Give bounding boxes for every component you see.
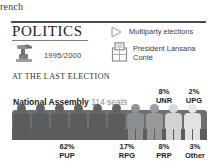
ballot-box-icon xyxy=(111,42,128,62)
header-subtitle: Multiparty elections xyxy=(129,27,193,36)
chart-label-upg-party: UPG xyxy=(180,97,208,106)
gavel-icon xyxy=(13,44,35,62)
chart-label-pup: 62% PUP xyxy=(52,143,82,160)
seat-figures xyxy=(12,104,207,140)
seat-figure xyxy=(70,104,87,140)
seat-figure xyxy=(165,104,182,140)
triangle-right-icon xyxy=(111,26,122,38)
seat-figure xyxy=(13,104,30,140)
term-years: 1995/2000 xyxy=(44,51,81,60)
chart-label-pup-party: PUP xyxy=(52,152,82,161)
seat-figure xyxy=(32,104,49,140)
chart-label-prp: 8% PRP xyxy=(150,143,178,160)
seat-figure xyxy=(51,104,68,140)
chart-label-unr: 8% UNR xyxy=(150,88,178,105)
seat-figure xyxy=(184,104,201,140)
leader-name-line2: Conté xyxy=(133,53,153,62)
leader-name: President Lansana Conté xyxy=(133,45,196,62)
chart-label-rpg: 17% RPG xyxy=(112,143,142,160)
title-underline xyxy=(12,40,88,41)
chart-label-unr-party: UNR xyxy=(150,97,178,106)
seat-figure xyxy=(108,104,125,140)
clipped-heading-text: rench xyxy=(0,1,23,12)
chart-label-prp-party: PRP xyxy=(150,152,178,161)
seat-figure xyxy=(89,104,106,140)
chart-label-rpg-party: RPG xyxy=(112,152,142,161)
chart-label-other: 3% Other xyxy=(178,143,212,160)
chart-label-upg: 2% UPG xyxy=(180,88,208,105)
section-label: AT THE LAST ELECTION xyxy=(12,72,110,81)
chart-label-other-party: Other xyxy=(178,152,212,161)
page-title: POLITICS xyxy=(12,23,83,40)
seat-figure xyxy=(146,104,163,140)
seat-figure xyxy=(127,104,144,140)
